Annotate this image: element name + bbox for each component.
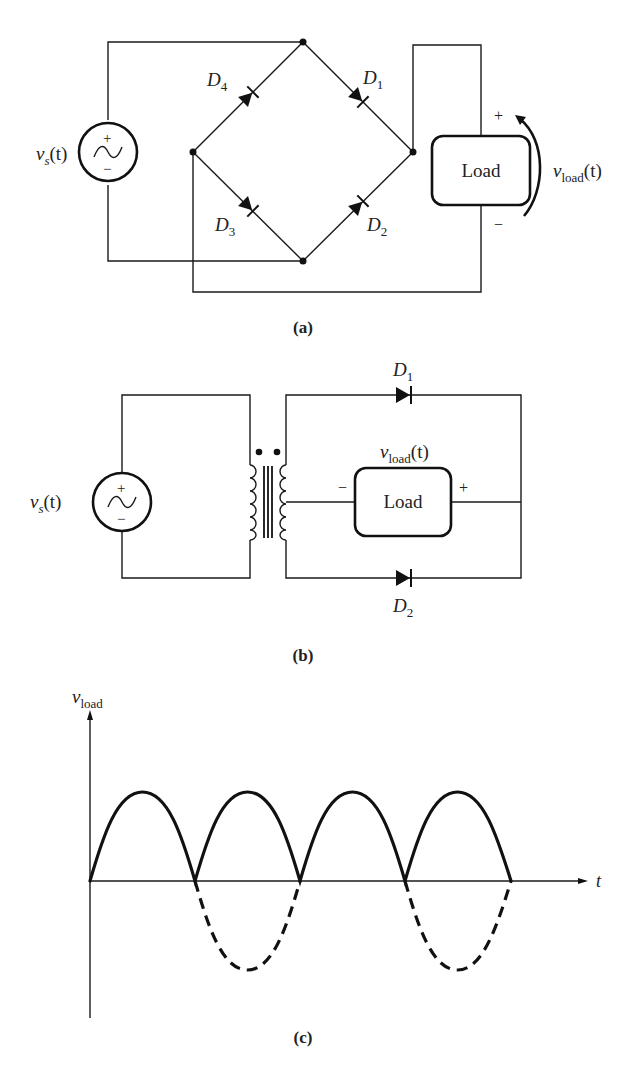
load-b-plus: + — [459, 479, 468, 496]
vload-label: vload(t) — [553, 160, 602, 185]
wire-return — [193, 152, 481, 292]
x-axis-arrow-icon — [578, 878, 588, 884]
negative-half-dashed-2 — [405, 881, 511, 970]
figure-c-waveform: t vload (c) — [72, 686, 602, 1047]
node-left — [190, 149, 197, 156]
load-minus: − — [494, 216, 503, 233]
node-top — [300, 39, 307, 46]
label-b-d2: D2 — [392, 595, 413, 620]
wire-primary-bottom — [122, 532, 250, 578]
diode-b-d2-icon — [396, 569, 411, 587]
diode-b-d1-icon — [396, 386, 411, 404]
source-b-plus: + — [117, 480, 125, 496]
figure-canvas: D4 D1 D3 D2 + − vs(t) Load + − vload(t) … — [0, 0, 636, 1078]
wire-top-left — [108, 42, 303, 120]
figure-b-center-tap-rectifier: + − vs(t) D1 D2 Load − + vload(t) (b) — [30, 359, 521, 665]
figure-a-bridge-rectifier: D4 D1 D3 D2 + − vs(t) Load + − vload(t) … — [36, 39, 602, 338]
label-b-d1: D1 — [392, 359, 413, 384]
transformer-icon — [250, 449, 286, 540]
node-bottom — [300, 258, 307, 265]
y-axis-label: vload — [72, 686, 103, 711]
caption-b: (b) — [293, 646, 314, 665]
load-b-minus: − — [338, 479, 347, 496]
source-minus: − — [103, 161, 111, 177]
y-axis-arrow-icon — [87, 710, 93, 720]
label-d3: D3 — [214, 214, 235, 239]
rectified-waveform — [90, 792, 511, 881]
load-b-label: Load — [383, 491, 423, 512]
load-label: Load — [461, 160, 501, 181]
label-d4: D4 — [206, 69, 228, 94]
source-plus: + — [103, 130, 111, 146]
label-d2: D2 — [366, 214, 387, 239]
wire-bottom-left — [108, 185, 303, 261]
source-b-minus: − — [117, 511, 125, 527]
wire-primary-top — [122, 395, 250, 472]
node-right — [410, 149, 417, 156]
label-d1: D1 — [362, 67, 383, 92]
load-plus: + — [494, 107, 503, 124]
source-label: vs(t) — [36, 143, 67, 168]
negative-half-dashed-1 — [195, 881, 300, 970]
wire-secondary-loop — [286, 395, 521, 578]
caption-c: (c) — [294, 1028, 313, 1047]
x-axis-label: t — [596, 871, 602, 891]
caption-a: (a) — [293, 318, 313, 337]
source-b-label: vs(t) — [30, 491, 61, 516]
vload-b-label: vload(t) — [380, 441, 429, 466]
